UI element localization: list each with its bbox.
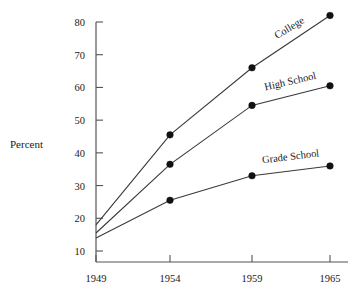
line-chart: 1020304050607080 1949195419591965 Colleg… [0,0,355,296]
y-tick-label-60: 60 [75,82,86,93]
data-point-grade-school-1965 [327,163,334,170]
y-tick-label-20: 20 [75,213,86,224]
x-tick-label-1949: 1949 [86,273,107,284]
y-tick-label-40: 40 [75,148,86,159]
y-tick-label-80: 80 [75,17,86,28]
x-tick-label-1954: 1954 [160,273,182,284]
data-point-high-school-1954 [167,161,174,168]
y-tick-label-30: 30 [75,181,86,192]
data-point-grade-school-1954 [167,197,174,204]
y-tick-label-50: 50 [75,115,86,126]
data-point-college-1965 [327,12,334,19]
y-tick-label-70: 70 [75,50,86,61]
data-point-college-1959 [249,65,256,72]
data-point-high-school-1965 [327,82,334,89]
x-tick-label-1959: 1959 [242,273,263,284]
chart-background [0,0,355,296]
data-point-college-1954 [167,132,174,139]
data-point-grade-school-1959 [249,172,256,179]
chart-container: 1020304050607080 1949195419591965 Colleg… [0,0,355,296]
y-axis-title: Percent [10,138,43,150]
data-point-high-school-1959 [249,102,256,109]
x-tick-label-1965: 1965 [320,273,341,284]
y-tick-label-10: 10 [75,246,86,257]
